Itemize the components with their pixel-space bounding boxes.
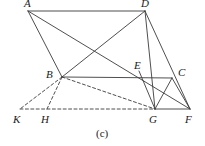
segment-BG bbox=[62, 77, 155, 109]
segment-BK bbox=[20, 77, 62, 109]
vertex-label-H: H bbox=[41, 114, 49, 125]
vertex-label-E: E bbox=[134, 60, 141, 71]
segment-EG bbox=[139, 71, 155, 109]
vertex-label-D: D bbox=[141, 0, 149, 9]
segment-BH bbox=[47, 77, 62, 109]
dashed-line-group bbox=[20, 77, 155, 109]
segment-CG bbox=[155, 78, 172, 109]
segment-CF bbox=[172, 78, 190, 109]
vertex-label-A: A bbox=[24, 0, 31, 9]
vertex-label-C: C bbox=[178, 67, 185, 78]
solid-line-group bbox=[28, 11, 190, 109]
segment-DG bbox=[145, 11, 155, 109]
figure-caption: (c) bbox=[96, 128, 108, 139]
segment-DF bbox=[145, 11, 190, 109]
geometry-figure: A D B E C K H G F (c) bbox=[0, 0, 205, 146]
vertex-label-F: F bbox=[185, 114, 192, 125]
vertex-label-G: G bbox=[149, 114, 157, 125]
vertex-label-K: K bbox=[13, 114, 20, 125]
segment-DB bbox=[62, 11, 145, 77]
segment-BC bbox=[62, 77, 172, 78]
segment-AF bbox=[28, 11, 190, 109]
figure-canvas bbox=[0, 0, 205, 146]
vertex-label-B: B bbox=[46, 69, 53, 80]
